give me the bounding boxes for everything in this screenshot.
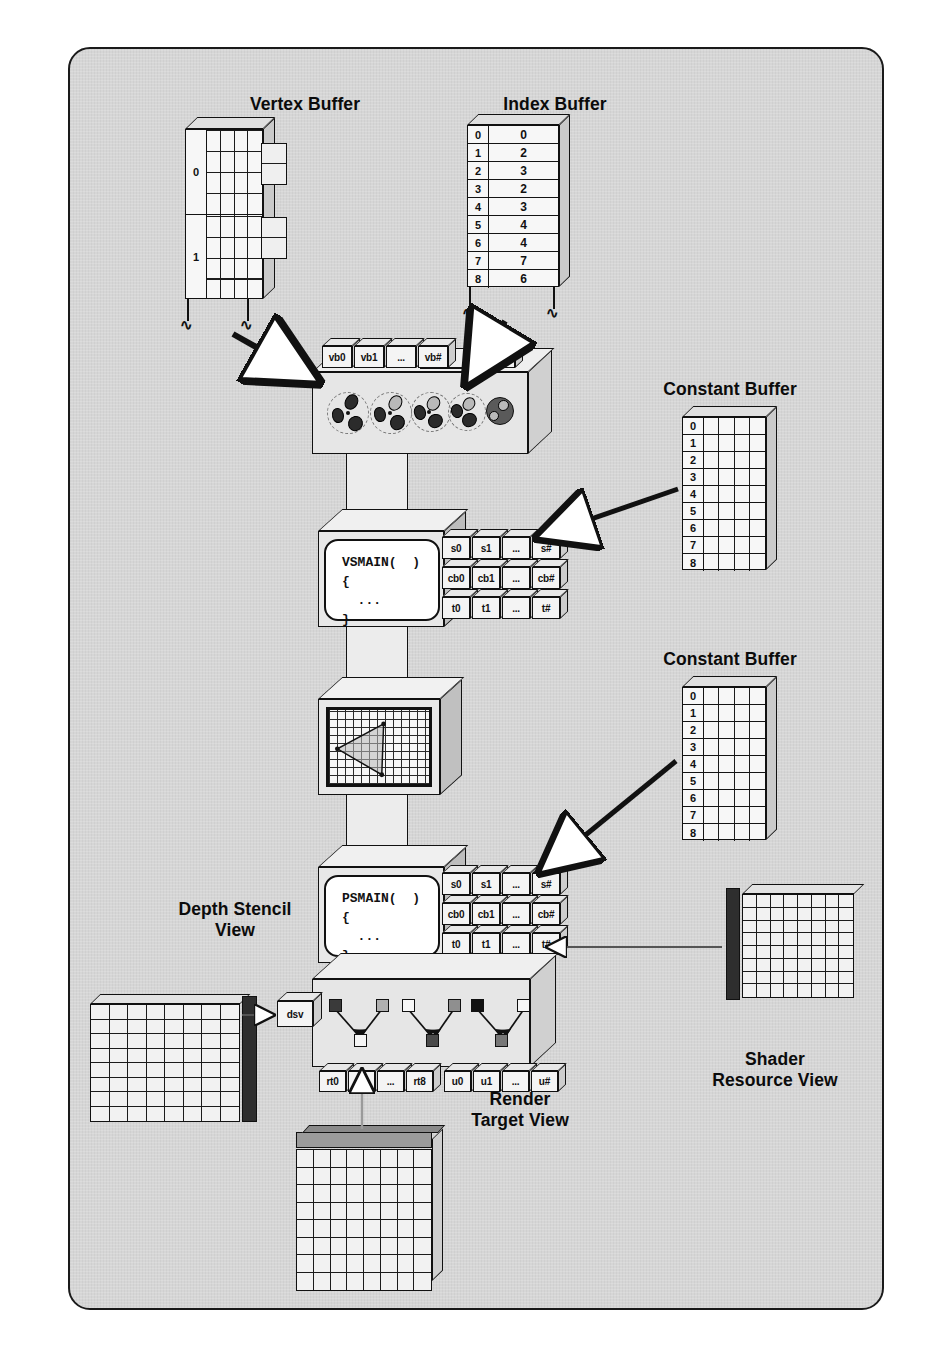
blend-input-square <box>517 999 530 1012</box>
constant-buffer-cell <box>719 722 734 738</box>
constant-buffer-row: 8 <box>683 554 765 571</box>
depth-stencil-cell <box>110 1005 129 1020</box>
shader-resource-cell <box>757 921 771 934</box>
om-uav-slot-label: ... <box>502 1071 529 1092</box>
index-buffer-row: 54 <box>468 216 558 234</box>
depth-stencil-cell <box>91 1092 110 1107</box>
vs-texture-slot-label: t# <box>532 597 560 619</box>
depth-stencil-cell <box>128 1063 147 1078</box>
ps-sampler-slot-label: s# <box>532 873 560 895</box>
shader-resource-cell <box>798 895 812 908</box>
vertex-buffer-break-mark: ∿ <box>180 317 193 332</box>
index-buffer-break-mark: ∿ <box>546 305 559 320</box>
vertex-buffer-protrusion <box>261 217 287 259</box>
index-buffer-index: 8 <box>468 270 489 288</box>
constant-buffer-index: 5 <box>683 503 704 519</box>
render-target-cell <box>331 1255 348 1273</box>
depth-stencil-cell <box>184 1049 203 1064</box>
render-target-cell <box>398 1273 415 1291</box>
depth-stencil-cell <box>91 1063 110 1078</box>
index-buffer-index: 4 <box>468 198 489 215</box>
label-shader-resource-view: Shader Resource View <box>670 1049 880 1090</box>
render-target-cell <box>364 1238 381 1256</box>
figure-page: Vertex Buffer Index Buffer Constant Buff… <box>0 0 928 1353</box>
render-target-cell <box>398 1185 415 1203</box>
render-target-cell <box>297 1220 314 1238</box>
constant-buffer-row: 8 <box>683 824 765 841</box>
constant-buffer-cell <box>719 469 734 485</box>
shader-resource-cell <box>771 972 785 985</box>
shader-resource-cell <box>812 921 826 934</box>
render-target-bar <box>296 1132 432 1148</box>
shader-resource-cell <box>743 972 757 985</box>
constant-buffer-cell <box>704 824 719 841</box>
shader-resource-cell <box>784 908 798 921</box>
depth-stencil-cell <box>147 1078 166 1093</box>
index-buffer-row: 00 <box>468 126 558 144</box>
shader-resource-cell <box>771 908 785 921</box>
shader-resource-cell <box>757 933 771 946</box>
index-buffer-row: 64 <box>468 234 558 252</box>
constant-buffer-cell <box>704 790 719 806</box>
constant-buffer-cell <box>750 554 765 571</box>
constant-buffer-cell <box>719 773 734 789</box>
constant-buffer-cell <box>719 520 734 536</box>
depth-stencil-cell <box>202 1092 221 1107</box>
blend-input-square <box>376 999 389 1012</box>
shader-resource-cell <box>812 984 826 997</box>
depth-stencil-cell <box>202 1107 221 1122</box>
constant-buffer-row: 5 <box>683 773 765 790</box>
index-buffer-break-mark: ∿ <box>462 305 475 320</box>
constant-buffer-index: 3 <box>683 739 704 755</box>
render-target-cell <box>297 1255 314 1273</box>
render-target-cell <box>398 1203 415 1221</box>
index-buffer-value: 3 <box>489 162 558 179</box>
render-target-cell <box>398 1150 415 1168</box>
shader-resource-cell <box>798 946 812 959</box>
index-buffer-row: 86 <box>468 270 558 288</box>
depth-stencil-cell <box>147 1020 166 1035</box>
render-target-cell <box>297 1238 314 1256</box>
constant-buffer-cell <box>704 739 719 755</box>
shader-resource-cell <box>798 972 812 985</box>
index-buffer-index: 0 <box>468 126 489 143</box>
shader-resource-cell <box>839 895 853 908</box>
depth-stencil-bar <box>242 996 257 1122</box>
constant-buffer-index: 5 <box>683 773 704 789</box>
render-target-cell <box>347 1185 364 1203</box>
depth-stencil-cell <box>184 1063 203 1078</box>
render-target-bar-top <box>302 1125 445 1133</box>
shader-resource-cell <box>826 946 840 959</box>
render-target-cell <box>347 1238 364 1256</box>
shader-resource-cell <box>743 895 757 908</box>
shader-resource-cell <box>743 933 757 946</box>
vs-constant-buffer-slot-label: cb# <box>532 567 560 589</box>
constant-buffer-cell <box>735 486 750 502</box>
shader-resource-cell <box>812 895 826 908</box>
depth-stencil-cell <box>202 1049 221 1064</box>
index-buffer-index: 7 <box>468 252 489 269</box>
shader-resource-cell <box>757 984 771 997</box>
depth-stencil-cell <box>91 1020 110 1035</box>
index-buffer-row: 77 <box>468 252 558 270</box>
shader-resource-cell <box>839 972 853 985</box>
constant-buffer-index: 1 <box>683 435 704 451</box>
shader-resource-cell <box>812 908 826 921</box>
constant-buffer-cell <box>735 537 750 553</box>
depth-stencil-cell <box>110 1034 129 1049</box>
constant-buffer-row: 0 <box>683 688 765 705</box>
shader-resource-cell <box>812 933 826 946</box>
shader-resource-cell <box>757 959 771 972</box>
constant-buffer-cell <box>719 537 734 553</box>
shader-resource-cell <box>826 959 840 972</box>
depth-stencil-cell <box>128 1092 147 1107</box>
constant-buffer-cell <box>704 435 719 451</box>
render-target-cell <box>297 1168 314 1186</box>
render-target-cell <box>381 1185 398 1203</box>
render-target-cell <box>331 1220 348 1238</box>
vs-texture-slot-label: t0 <box>442 597 470 619</box>
primitive-icon-3 <box>411 392 451 432</box>
constant-buffer-cell <box>750 688 765 704</box>
constant-buffer-cell <box>750 824 765 841</box>
render-target-cell <box>364 1150 381 1168</box>
